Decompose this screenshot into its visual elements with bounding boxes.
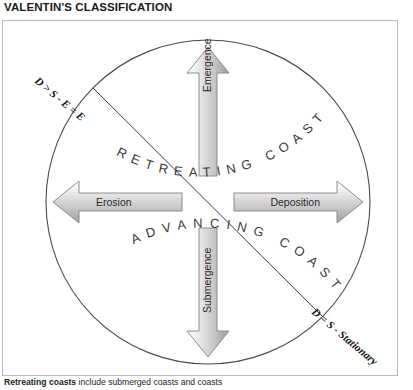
annotation-lower-right: D = S - Stationary — [309, 305, 380, 368]
arrow-emergence-label: Emergence — [201, 38, 213, 92]
figure-caption: Retreating coasts include submerged coas… — [4, 377, 404, 388]
arc-label-retreating-coast: RETREATING COAST — [114, 105, 330, 179]
arrow-erosion: Erosion — [53, 181, 182, 223]
arrow-erosion-label: Erosion — [96, 196, 132, 208]
valentin-classification-diagram: Emergence Submergence Erosion Deposition… — [0, 0, 413, 390]
arrow-emergence: Emergence — [187, 38, 229, 176]
arrow-submergence-label: Submergence — [201, 247, 213, 313]
caption-rest: include submerged coasts and coasts — [76, 377, 222, 387]
arrow-deposition-label: Deposition — [270, 196, 320, 208]
caption-lead: Retreating coasts — [4, 377, 76, 387]
arrow-deposition: Deposition — [234, 181, 363, 223]
annotation-upper-left: D > S - E = E — [32, 74, 88, 123]
arrow-submergence: Submergence — [187, 228, 229, 357]
arc-label-advancing-coast: ADVANCING COAST — [128, 215, 348, 297]
figure-page: VALENTIN'S CLASSIFICATION — [0, 0, 413, 390]
